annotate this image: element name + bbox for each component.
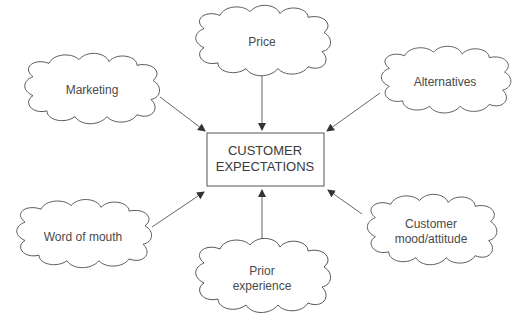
center-label-line1: CUSTOMER (216, 143, 314, 159)
node-prior-experience-line1: Prior (233, 264, 292, 279)
node-word-of-mouth-label: Word of mouth (44, 230, 122, 245)
node-customer-mood-line1: Customer (395, 217, 468, 232)
node-prior-experience-line2: experience (233, 279, 292, 294)
arrow-customer-mood (328, 190, 362, 214)
node-word-of-mouth: Word of mouth (44, 230, 122, 245)
node-marketing: Marketing (66, 83, 119, 98)
node-prior-experience: Prior experience (233, 264, 292, 294)
arrow-alternatives (327, 93, 380, 131)
node-marketing-label: Marketing (66, 83, 119, 98)
arrow-word-of-mouth (152, 192, 204, 227)
node-alternatives-label: Alternatives (414, 75, 477, 90)
center-label-line2: EXPECTATIONS (216, 159, 314, 175)
node-alternatives: Alternatives (414, 75, 477, 90)
arrow-marketing (160, 97, 205, 131)
node-customer-mood-line2: mood/attitude (395, 232, 468, 247)
node-price: Price (248, 35, 275, 50)
center-label: CUSTOMER EXPECTATIONS (216, 143, 314, 175)
node-customer-mood: Customer mood/attitude (395, 217, 468, 247)
node-price-label: Price (248, 35, 275, 50)
